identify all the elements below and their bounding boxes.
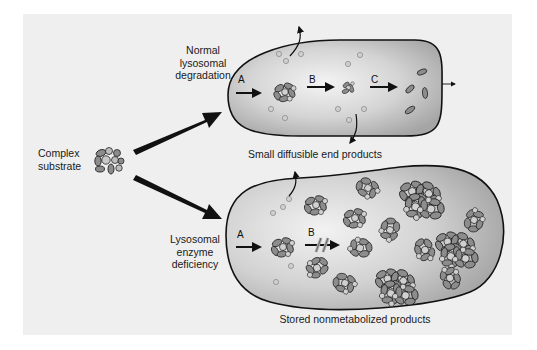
- normal-pathway-label: Normal lysosomal degradation: [168, 44, 238, 82]
- label-line: degradation: [168, 69, 238, 82]
- svg-text:A: A: [237, 229, 244, 240]
- svg-text:B: B: [309, 74, 316, 85]
- deficient-lysosome: A B: [226, 166, 503, 311]
- label-line: substrate: [38, 160, 81, 173]
- label-line: Complex: [38, 147, 81, 160]
- diagram-graphic: A B: [0, 0, 537, 350]
- normal-pathway-caption: Small diffusible end products: [230, 148, 400, 161]
- label-line: deficiency: [160, 258, 230, 271]
- svg-text:C: C: [371, 74, 378, 85]
- deficient-pathway-label: Lysosomal enzyme deficiency: [160, 233, 230, 271]
- diagram-canvas: A B: [0, 0, 537, 350]
- source-node-label: Complex substrate: [38, 147, 81, 172]
- svg-text:A: A: [238, 74, 245, 85]
- label-line: Lysosomal: [160, 233, 230, 246]
- deficient-pathway-caption: Stored nonmetabolized products: [270, 313, 440, 326]
- svg-text:B: B: [308, 227, 315, 238]
- label-line: lysosomal: [168, 57, 238, 70]
- label-line: Normal: [168, 44, 238, 57]
- label-line: enzyme: [160, 246, 230, 259]
- complex-substrate-icon: [95, 148, 124, 175]
